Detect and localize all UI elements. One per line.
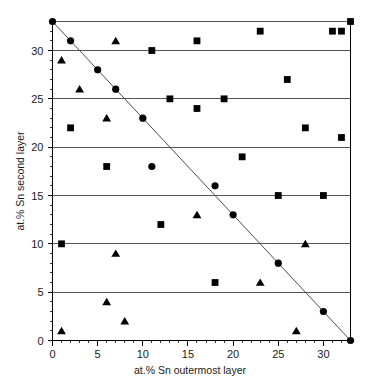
data-point-circle-2-31: [67, 37, 74, 44]
data-point-triangle-6-23: [102, 114, 111, 121]
data-point-square-26-27: [284, 76, 291, 83]
data-point-square-33-33: [347, 18, 354, 25]
y-tick-labels: 051015202530: [31, 45, 43, 347]
data-point-triangle-8-2: [120, 317, 129, 324]
x-tick-labels: 051015202530: [49, 348, 329, 360]
data-point-square-13-25: [166, 95, 173, 102]
data-point-triangle-27-1: [292, 327, 301, 334]
data-point-square-32-21: [338, 134, 345, 141]
data-point-circle-11-18: [148, 163, 155, 170]
y-tick-label-15: 15: [31, 190, 43, 202]
tick-marks: [48, 22, 351, 346]
data-point-triangle-6-4: [102, 298, 111, 305]
data-point-circle-25-8: [275, 260, 282, 267]
data-point-square-1-10: [58, 240, 65, 247]
data-point-triangle-1-1: [57, 327, 66, 334]
y-tick-label-10: 10: [31, 238, 43, 250]
data-point-circle-20-13: [230, 211, 237, 218]
y-tick-label-20: 20: [31, 141, 43, 153]
data-point-triangle-7-31: [111, 37, 120, 44]
data-point-square-16-24: [194, 105, 201, 112]
x-tick-label-15: 15: [182, 348, 194, 360]
x-tick-label-10: 10: [137, 348, 149, 360]
data-point-square-2-22: [67, 124, 74, 131]
data-point-circle-33-0: [347, 337, 354, 344]
y-tick-label-0: 0: [37, 335, 43, 347]
plot-canvas: 051015202530 051015202530 at.% Sn outerm…: [0, 0, 371, 388]
data-point-square-16-31: [194, 37, 201, 44]
data-point-square-25-15: [275, 192, 282, 199]
x-axis-title: at.% Sn outermost layer: [134, 364, 247, 376]
data-point-square-18-6: [212, 279, 219, 286]
data-point-triangle-16-13: [193, 211, 202, 218]
data-point-square-32-32: [338, 28, 345, 35]
data-point-triangle-7-9: [111, 249, 120, 256]
data-point-square-28-22: [302, 124, 309, 131]
x-tick-label-0: 0: [49, 348, 55, 360]
data-point-triangle-1-29: [57, 56, 66, 63]
data-point-triangle-23-6: [256, 278, 265, 285]
data-point-triangle-3-26: [75, 85, 84, 92]
x-tick-label-20: 20: [227, 348, 239, 360]
data-point-square-11-30: [148, 47, 155, 54]
y-tick-label-5: 5: [37, 286, 43, 298]
y-tick-label-25: 25: [31, 93, 43, 105]
gridlines: [53, 22, 351, 293]
y-tick-label-30: 30: [31, 45, 43, 57]
data-point-square-21-19: [239, 153, 246, 160]
data-point-circle-0-33: [49, 18, 56, 25]
y-axis-title: at.% Sn second layer: [14, 131, 26, 231]
data-point-square-31-32: [329, 28, 336, 35]
data-point-circle-18-16: [211, 182, 218, 189]
data-point-square-12-12: [157, 221, 164, 228]
data-point-circle-7-26: [112, 86, 119, 93]
data-point-circle-5-28: [94, 66, 101, 73]
scatter-chart: 051015202530 051015202530 at.% Sn outerm…: [0, 0, 371, 388]
data-point-circle-30-3: [320, 308, 327, 315]
x-tick-label-30: 30: [317, 348, 329, 360]
x-tick-label-25: 25: [272, 348, 284, 360]
data-point-square-19-25: [221, 95, 228, 102]
x-tick-label-5: 5: [95, 348, 101, 360]
data-point-square-30-15: [320, 192, 327, 199]
data-point-square-23-32: [257, 28, 264, 35]
data-point-circle-10-23: [139, 115, 146, 122]
data-point-square-6-18: [103, 163, 110, 170]
